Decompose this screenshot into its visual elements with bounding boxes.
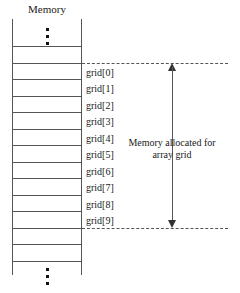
cell-label-grid-5: grid[5] xyxy=(86,150,114,160)
bottom-vertical-ellipsis-icon xyxy=(12,268,82,285)
memory-cell-divider xyxy=(12,228,82,229)
memory-cell-divider xyxy=(12,162,82,163)
diagram-title: Memory xyxy=(12,3,82,16)
memory-cell-divider xyxy=(12,261,82,262)
cell-label-grid-8: grid[8] xyxy=(86,200,114,210)
memory-cell-divider xyxy=(12,63,82,64)
memory-column xyxy=(12,19,82,275)
memory-cell-divider xyxy=(12,211,82,212)
annotation-line-1: Memory allocated for xyxy=(116,137,228,149)
cell-label-grid-9: grid[9] xyxy=(86,216,114,226)
memory-cell-divider xyxy=(12,195,82,196)
annotation-line-2: array grid xyxy=(116,149,228,161)
allocation-annotation: Memory allocated for array grid xyxy=(116,137,228,161)
cell-label-grid-1: grid[1] xyxy=(86,84,114,94)
memory-column-left-edge xyxy=(12,19,13,275)
allocation-bottom-dashed-line xyxy=(82,228,228,229)
cell-label-grid-6: grid[6] xyxy=(86,167,114,177)
memory-cell-divider xyxy=(12,112,82,113)
cell-label-grid-4: grid[4] xyxy=(86,134,114,144)
memory-cell-divider xyxy=(12,79,82,80)
cell-label-grid-3: grid[3] xyxy=(86,117,114,127)
memory-cell-divider xyxy=(12,46,82,47)
memory-layout-diagram: Memory grid[0] grid[1] grid[2] grid[3] g… xyxy=(0,0,240,293)
memory-column-right-edge xyxy=(81,19,82,275)
cell-label-grid-2: grid[2] xyxy=(86,101,114,111)
cell-label-grid-0: grid[0] xyxy=(86,68,114,78)
memory-cell-divider xyxy=(12,145,82,146)
cell-label-grid-7: grid[7] xyxy=(86,183,114,193)
memory-cell-divider xyxy=(12,96,82,97)
allocation-top-dashed-line xyxy=(82,63,228,64)
memory-cell-divider xyxy=(12,178,82,179)
span-arrow-down-head xyxy=(168,220,176,228)
memory-cell-divider xyxy=(12,129,82,130)
top-vertical-ellipsis-icon xyxy=(12,28,82,45)
memory-cell-divider xyxy=(12,244,82,245)
